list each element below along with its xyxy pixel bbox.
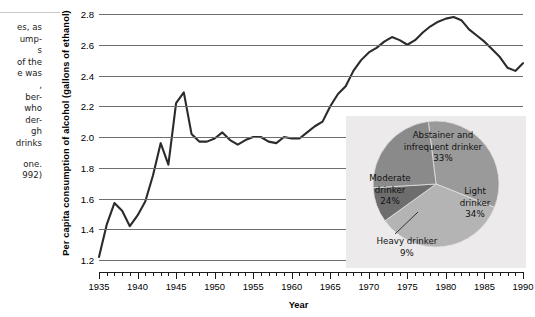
side-note-text: es, asump-sof thee was,ber-whoder-ghdrin…: [0, 22, 42, 182]
x-tick-1944: [168, 272, 169, 276]
figure-root: es, asump-sof thee was,ber-whoder-ghdrin…: [0, 0, 535, 317]
x-tick-1980: [446, 272, 447, 279]
x-tick-1936: [107, 272, 108, 276]
x-tick-1975: [407, 272, 408, 279]
x-tick-1971: [377, 272, 378, 276]
y-tick-label-1.2: 1.2: [81, 255, 94, 266]
x-tick-1989: [515, 272, 516, 276]
x-tick-1945: [176, 272, 177, 279]
x-tick-1985: [484, 272, 485, 279]
y-gridline-2.6: [99, 45, 523, 46]
x-tick-1937: [114, 272, 115, 276]
x-tick-label-1975: 1975: [397, 281, 418, 292]
x-tick-1970: [369, 272, 370, 279]
x-tick-label-1990: 1990: [513, 281, 534, 292]
x-axis: [99, 272, 523, 279]
y-tick-label-1.6: 1.6: [81, 193, 94, 204]
pie-label-light-line2: drinker: [443, 198, 507, 210]
side-note-gap: [0, 150, 42, 159]
x-tick-1955: [253, 272, 254, 279]
side-note-line-8: der-: [0, 115, 42, 127]
x-tick-1958: [276, 272, 277, 276]
pie-label-moderate-pct: 24%: [356, 196, 424, 208]
y-gridline-2.2: [99, 106, 523, 107]
x-tick-label-1980: 1980: [435, 281, 456, 292]
pie-label-moderate-line1: Moderate: [356, 173, 424, 185]
x-tick-1956: [261, 272, 262, 276]
x-tick-1952: [230, 272, 231, 276]
side-note-line-0: es, as: [0, 22, 42, 34]
pie-label-heavy-line1: Heavy drinker: [350, 236, 464, 248]
x-tick-label-1945: 1945: [166, 281, 187, 292]
x-tick-1943: [161, 272, 162, 276]
side-note-line-4: e was: [0, 68, 42, 80]
side-note-line-6: ber-: [0, 92, 42, 104]
x-tick-1959: [284, 272, 285, 276]
pie-label-moderate: Moderate drinker 24%: [356, 173, 424, 208]
pie-label-heavy: Heavy drinker 9%: [350, 236, 464, 259]
pie-label-abstainer-pct: 33%: [384, 153, 502, 165]
x-tick-1974: [400, 272, 401, 276]
x-tick-1978: [430, 272, 431, 276]
x-tick-1966: [338, 272, 339, 276]
side-note-line-10: drinks: [0, 138, 42, 150]
side-note-line-2: s: [0, 45, 42, 57]
y-axis-title: Per capita consumption of alcohol (gallo…: [61, 8, 71, 258]
x-tick-1949: [207, 272, 208, 276]
y-gridline-2.4: [99, 76, 523, 77]
x-tick-1961: [299, 272, 300, 276]
y-tick-label-2.0: 2.0: [81, 132, 94, 143]
pie-label-abstainer-line2: infrequent drinker: [384, 142, 502, 154]
x-tick-1935: [99, 272, 100, 279]
x-tick-1982: [461, 272, 462, 276]
x-tick-1965: [330, 272, 331, 279]
x-tick-label-1985: 1985: [474, 281, 495, 292]
x-tick-1953: [238, 272, 239, 276]
side-note-source-line-0: one.: [0, 159, 42, 171]
x-tick-label-1950: 1950: [204, 281, 225, 292]
y-tick-label-2.6: 2.6: [81, 39, 94, 50]
x-tick-label-1960: 1960: [281, 281, 302, 292]
x-axis-title: Year: [62, 300, 535, 310]
x-tick-1984: [477, 272, 478, 276]
x-tick-label-1940: 1940: [127, 281, 148, 292]
x-tick-1940: [138, 272, 139, 279]
x-tick-1964: [323, 272, 324, 276]
x-tick-1951: [222, 272, 223, 276]
pie-label-light: Light drinker 34%: [443, 186, 507, 221]
x-tick-1986: [492, 272, 493, 276]
x-tick-1988: [508, 272, 509, 276]
x-tick-1973: [392, 272, 393, 276]
side-note-line-7: who: [0, 103, 42, 115]
x-tick-label-1955: 1955: [243, 281, 264, 292]
x-tick-1960: [292, 272, 293, 279]
pie-label-light-line1: Light: [443, 186, 507, 198]
top-divider-rule: [0, 12, 60, 13]
side-note-line-9: gh: [0, 126, 42, 138]
x-tick-1942: [153, 272, 154, 276]
x-tick-1954: [245, 272, 246, 276]
x-tick-label-1935: 1935: [89, 281, 110, 292]
x-tick-1969: [361, 272, 362, 276]
x-tick-1941: [145, 272, 146, 276]
x-axis-line: [99, 272, 523, 273]
x-tick-1977: [423, 272, 424, 276]
y-gridline-2.8: [99, 14, 523, 15]
x-tick-1990: [523, 272, 524, 279]
x-tick-1979: [438, 272, 439, 276]
pie-label-abstainer-line1: Abstainer and: [384, 130, 502, 142]
y-tick-label-1.4: 1.4: [81, 224, 94, 235]
side-note-line-1: ump-: [0, 34, 42, 46]
x-tick-1981: [454, 272, 455, 276]
x-tick-1950: [215, 272, 216, 279]
x-tick-1968: [353, 272, 354, 276]
x-tick-1939: [130, 272, 131, 276]
x-tick-1938: [122, 272, 123, 276]
side-note-line-3: of the: [0, 57, 42, 69]
x-tick-1948: [199, 272, 200, 276]
x-tick-1957: [269, 272, 270, 276]
x-tick-1983: [469, 272, 470, 276]
pie-chart-inset: Abstainer and infrequent drinker 33% Lig…: [346, 116, 526, 268]
pie-label-heavy-pct: 9%: [350, 248, 464, 260]
pie-label-moderate-line2: drinker: [356, 185, 424, 197]
